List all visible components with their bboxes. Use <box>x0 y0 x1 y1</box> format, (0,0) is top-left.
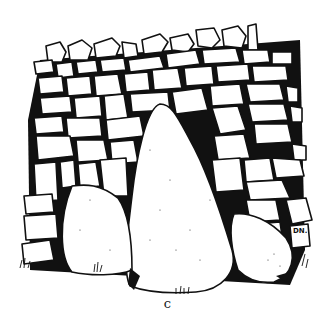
artist-initials: DN. <box>293 227 307 235</box>
stone-wall-drawing: DN. <box>0 0 335 327</box>
figure-caption: c <box>0 296 335 311</box>
